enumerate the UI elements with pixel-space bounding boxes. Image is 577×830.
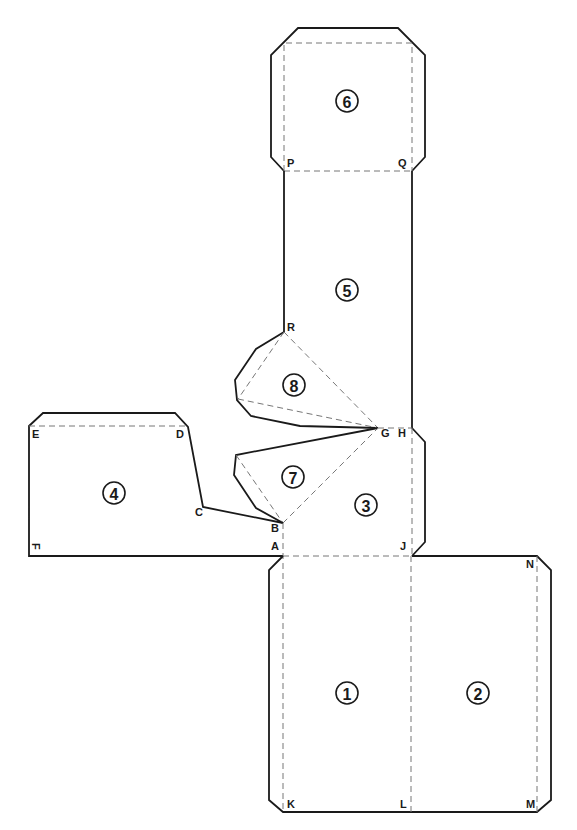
panel-4-cut-outline <box>29 413 283 556</box>
panel-2-number: 2 <box>474 686 483 703</box>
label-h: H <box>398 427 406 439</box>
panel-4-number: 4 <box>110 486 119 503</box>
label-e: E <box>32 428 39 440</box>
label-d: D <box>176 428 184 440</box>
panel-5-number: 5 <box>343 283 352 300</box>
label-a: A <box>271 540 279 552</box>
label-m: M <box>526 798 535 810</box>
label-g: G <box>381 427 390 439</box>
fold-line-8b <box>238 399 378 428</box>
label-f: F <box>30 543 42 550</box>
panel-3-right-tab <box>412 428 425 556</box>
label-l: L <box>400 798 407 810</box>
panels-1-2-cut-outline <box>269 556 551 812</box>
panel-3-number: 3 <box>362 498 371 515</box>
panels-1-2 <box>269 556 551 812</box>
label-k: K <box>287 798 295 810</box>
label-n: N <box>526 558 534 570</box>
label-j: J <box>400 540 406 552</box>
panel-numbers: 6 5 8 7 3 4 1 2 <box>103 90 489 704</box>
panel-8-number: 8 <box>290 378 299 395</box>
panel-6-number: 6 <box>343 94 352 111</box>
label-p: P <box>287 157 294 169</box>
papercraft-net: P Q R G H E D C B A F J N K L M 6 5 8 7 … <box>0 0 577 830</box>
panel-7-number: 7 <box>289 470 298 487</box>
label-q: Q <box>398 157 407 169</box>
label-c: C <box>195 506 203 518</box>
point-labels: P Q R G H E D C B A F J N K L M <box>30 157 535 810</box>
label-b: B <box>271 522 279 534</box>
label-r: R <box>287 321 295 333</box>
panel-1-number: 1 <box>343 686 352 703</box>
flap-8 <box>235 332 378 428</box>
panel-4 <box>29 413 283 556</box>
